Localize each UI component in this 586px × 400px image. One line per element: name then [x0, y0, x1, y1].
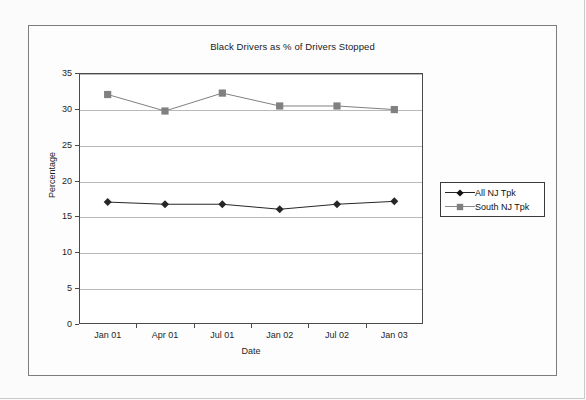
legend-item-south-nj-tpk: South NJ Tpk: [445, 200, 540, 214]
diamond-marker-icon: [456, 189, 464, 197]
chart-legend: All NJ Tpk South NJ Tpk: [440, 182, 545, 217]
legend-label-all-nj-tpk: All NJ Tpk: [475, 188, 516, 198]
gridline: [80, 217, 422, 218]
y-tick-label: 30: [32, 104, 72, 114]
page-canvas: Black Drivers as % of Drivers Stopped Pe…: [0, 0, 586, 400]
x-tick-label: Jul 01: [210, 330, 234, 340]
gridline: [80, 74, 422, 75]
gridline: [80, 110, 422, 111]
y-tick-mark: [75, 145, 79, 146]
legend-item-all-nj-tpk: All NJ Tpk: [445, 186, 540, 200]
y-tick-mark: [75, 216, 79, 217]
y-tick-label: 20: [32, 176, 72, 186]
gridline: [80, 253, 422, 254]
y-tick-mark: [75, 252, 79, 253]
x-tick-mark: [308, 324, 309, 328]
gridline: [80, 146, 422, 147]
chart-title: Black Drivers as % of Drivers Stopped: [29, 41, 556, 52]
y-tick-label: 25: [32, 140, 72, 150]
x-tick-label: Jul 02: [325, 330, 349, 340]
gridline: [80, 182, 422, 183]
x-tick-mark: [366, 324, 367, 328]
x-tick-label: Jan 02: [266, 330, 293, 340]
y-tick-mark: [75, 109, 79, 110]
y-tick-label: 15: [32, 211, 72, 221]
legend-key-square-icon: [445, 200, 475, 214]
y-tick-mark: [75, 73, 79, 74]
y-tick-label: 10: [32, 247, 72, 257]
gridline: [80, 289, 422, 290]
x-axis-label: Date: [79, 346, 423, 356]
square-marker-icon: [456, 203, 464, 211]
plot-area: [79, 73, 423, 324]
y-tick-mark: [75, 181, 79, 182]
y-tick-label: 0: [32, 319, 72, 329]
legend-key-diamond-icon: [445, 186, 475, 200]
x-tick-label: Jan 03: [381, 330, 408, 340]
x-tick-label: Apr 01: [152, 330, 179, 340]
y-tick-label: 5: [32, 283, 72, 293]
x-tick-label: Jan 01: [94, 330, 121, 340]
x-tick-mark: [194, 324, 195, 328]
x-tick-mark: [136, 324, 137, 328]
y-tick-label: 35: [32, 68, 72, 78]
y-tick-mark: [75, 324, 79, 325]
y-tick-mark: [75, 288, 79, 289]
legend-label-south-nj-tpk: South NJ Tpk: [475, 202, 529, 212]
x-tick-mark: [251, 324, 252, 328]
